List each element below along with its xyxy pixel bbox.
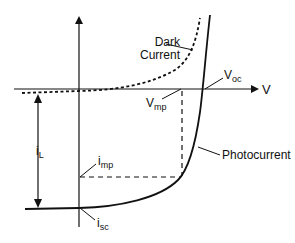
imp-label: imp [98, 155, 113, 170]
isc-label: isc [97, 217, 109, 232]
imp-sub: mp [101, 160, 114, 170]
il-arrowhead-up [34, 94, 42, 103]
photocurrent-label: Photocurrent [222, 149, 291, 161]
photocurrent-leader [198, 147, 220, 155]
vmp-main: V [146, 96, 154, 110]
imp-leader [80, 164, 96, 177]
il-sub: L [39, 150, 44, 160]
vmp-label: Vmp [146, 97, 167, 112]
voc-main: V [224, 68, 232, 82]
dark-current-label: Dark Current [140, 36, 180, 62]
dark-current-label-line2: Current [140, 49, 180, 62]
x-axis-label: V [262, 83, 271, 96]
voc-label: Voc [224, 69, 242, 84]
isc-sub: sc [100, 222, 109, 232]
iv-curve-diagram: V Dark Current Voc Vmp Photocurrent iL i… [0, 0, 295, 243]
vmp-sub: mp [154, 102, 167, 112]
isc-leader [80, 208, 95, 220]
voc-leader [205, 78, 223, 89]
il-label: iL [36, 145, 44, 160]
il-arrowhead-down [34, 199, 42, 208]
voc-sub: oc [232, 74, 242, 84]
